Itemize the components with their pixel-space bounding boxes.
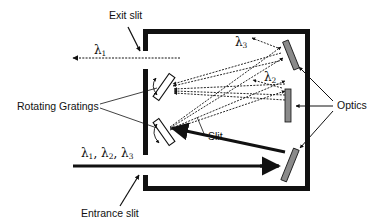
gratings-leader-upper <box>100 88 157 104</box>
housing-bottom-wall <box>143 186 310 191</box>
optic-mirror-middle <box>285 89 291 122</box>
rotating-gratings-label: Rotating Gratings <box>17 100 99 112</box>
entrance-slit-leader <box>120 175 139 206</box>
lambda-2-label: λ2 <box>264 70 277 85</box>
housing-right-wall <box>305 29 310 191</box>
gratings-leader-lower <box>100 108 157 128</box>
rotating-grating-upper <box>153 74 175 101</box>
entrance-slit-label: Entrance slit <box>81 207 139 219</box>
spectrometer-diagram: Exit slit Entrance slit Rotating Grating… <box>0 0 380 224</box>
exit-slit-label: Exit slit <box>109 9 142 21</box>
lambda-input-label: λ1, λ2, λ3 <box>81 146 134 161</box>
exit-slit-leader <box>128 27 140 51</box>
collimated-beam <box>172 128 285 152</box>
optics-leaders <box>296 67 333 148</box>
slit-label: Slit <box>208 130 223 142</box>
left-wall-bottom-stub <box>143 175 148 191</box>
optics-label: Optics <box>337 99 367 111</box>
left-wall-top-stub <box>143 29 148 51</box>
left-wall-middle <box>143 69 148 155</box>
housing-top-wall <box>143 29 310 34</box>
lambda-exit-label: λ1 <box>94 43 106 58</box>
optic-mirror-top <box>283 40 300 70</box>
lambda-3-label: λ3 <box>235 35 248 50</box>
rotating-grating-lower <box>153 119 175 146</box>
dispersed-rays <box>170 38 285 130</box>
